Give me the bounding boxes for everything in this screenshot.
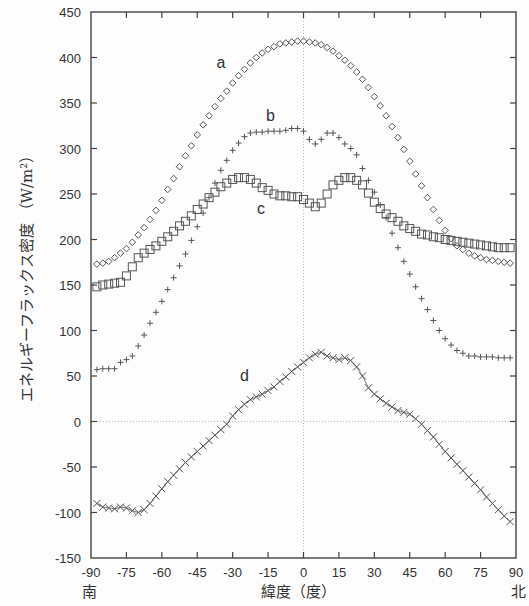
diamond-marker [359, 76, 366, 83]
diamond-marker [141, 224, 148, 231]
plus-marker [454, 348, 460, 354]
diamond-marker [465, 250, 472, 257]
plus-marker [182, 251, 188, 257]
diamond-marker [365, 84, 372, 91]
x-marker [483, 494, 490, 501]
plus-marker [165, 287, 171, 293]
diamond-marker [389, 123, 396, 130]
x-tick-label: -90 [82, 565, 101, 580]
diamond-marker [288, 39, 295, 46]
plus-marker [330, 130, 336, 136]
x-marker [347, 357, 354, 364]
diamond-marker [100, 260, 107, 267]
diamond-marker [418, 183, 425, 190]
plus-marker [153, 309, 159, 315]
square-marker [164, 233, 172, 241]
square-marker [364, 189, 372, 197]
north-label: 北 [511, 583, 526, 601]
x-marker [265, 387, 272, 394]
plus-marker [312, 141, 318, 147]
x-marker [135, 509, 142, 516]
x-marker [389, 403, 396, 410]
x-tick-label: -60 [152, 565, 171, 580]
square-marker [258, 184, 266, 192]
y-tick-label: 300 [59, 142, 81, 157]
plus-marker [460, 350, 466, 356]
curve-label-d: d [240, 367, 249, 384]
x-marker [276, 378, 283, 385]
x-marker [335, 356, 342, 363]
diamond-marker [129, 239, 136, 246]
y-axis-title: エネルギーフラックス密度 （W/m²） [18, 148, 36, 402]
square-marker [211, 188, 219, 196]
x-marker [253, 393, 260, 400]
square-marker [158, 237, 166, 245]
x-marker [312, 351, 319, 358]
plus-marker [336, 135, 342, 141]
square-marker [359, 181, 367, 189]
x-marker [394, 407, 401, 414]
plus-marker [478, 354, 484, 360]
square-marker [128, 263, 136, 271]
diamond-marker [412, 171, 419, 178]
plus-marker [118, 359, 124, 365]
x-marker [371, 391, 378, 398]
square-marker [176, 222, 184, 230]
diamond-marker [477, 254, 484, 261]
diamond-marker [194, 132, 201, 139]
diamond-marker [253, 54, 260, 61]
x-tick-label: 75 [473, 565, 487, 580]
square-marker [353, 176, 361, 184]
diamond-marker [371, 93, 378, 100]
x-tick-label: 15 [332, 565, 346, 580]
plus-marker [295, 125, 301, 131]
series-d-line [97, 352, 510, 521]
diamond-marker [306, 39, 313, 46]
square-marker [329, 181, 337, 189]
x-marker [377, 395, 384, 402]
plus-marker [507, 355, 513, 361]
x-marker [330, 354, 337, 361]
square-marker [406, 225, 414, 233]
diamond-marker [324, 44, 331, 51]
diamond-marker [265, 46, 272, 53]
plus-marker [259, 129, 265, 135]
curve-label-c: c [257, 200, 265, 217]
x-marker [158, 485, 165, 492]
plus-marker [395, 245, 401, 251]
square-marker [500, 244, 508, 252]
y-tick-label: 400 [59, 51, 81, 66]
diamond-marker [259, 50, 266, 57]
x-marker [341, 354, 348, 361]
square-marker [240, 174, 248, 182]
x-marker [424, 427, 431, 434]
plus-marker [230, 147, 236, 153]
x-marker [495, 506, 502, 513]
diamond-marker [501, 259, 508, 266]
square-marker [134, 254, 142, 262]
diamond-marker [111, 254, 118, 261]
x-marker [365, 384, 372, 391]
diamond-marker [147, 216, 154, 223]
x-marker [170, 472, 177, 479]
y-tick-label: 450 [59, 5, 81, 20]
x-marker [247, 396, 254, 403]
diamond-marker [105, 258, 112, 265]
x-marker [453, 461, 460, 468]
diamond-marker [153, 207, 160, 214]
axis-labels: -90-75-60-45-30-150153045607590-150-100-… [18, 5, 526, 601]
plus-marker [277, 128, 283, 134]
plus-marker [177, 263, 183, 269]
plus-marker [112, 366, 118, 372]
y-tick-label: -150 [55, 551, 81, 566]
x-marker [448, 454, 455, 461]
diamond-marker [271, 43, 278, 50]
diamond-marker [117, 250, 124, 257]
x-axis-title: 緯度（度） [261, 583, 336, 601]
plus-marker [188, 237, 194, 243]
x-marker [324, 352, 331, 359]
data-series [93, 38, 514, 525]
diamond-marker [495, 258, 502, 265]
diamond-marker [170, 175, 177, 182]
x-marker [141, 506, 148, 513]
